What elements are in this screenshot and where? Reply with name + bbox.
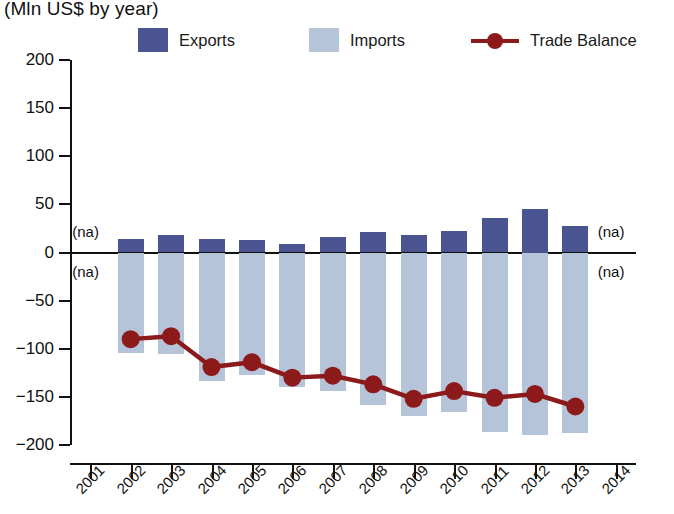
legend-label-trade-balance: Trade Balance	[530, 31, 637, 50]
chart-container: xports and Imports, by year (Mln US$ by …	[0, 0, 674, 514]
x-axis-tick-label: 2003	[153, 461, 189, 497]
y-axis-tick-label: −100	[0, 339, 54, 359]
y-axis-tick	[59, 396, 70, 398]
x-axis-tick-label: 2004	[194, 461, 230, 497]
legend-item-trade-balance: Trade Balance	[471, 28, 637, 52]
y-axis-tick	[59, 203, 70, 205]
y-axis-tick-label: 100	[0, 146, 54, 166]
imports-swatch-icon	[309, 28, 339, 52]
trade-balance-point	[243, 353, 261, 371]
trade-balance-point	[283, 369, 301, 387]
y-axis-tick-label: 150	[0, 98, 54, 118]
trade-balance-point	[324, 367, 342, 385]
legend-label-imports: Imports	[350, 31, 405, 50]
exports-swatch-icon	[138, 28, 168, 52]
trade-balance-point	[364, 375, 382, 393]
chart-legend: Exports Imports Trade Balance	[138, 28, 637, 52]
x-axis-tick-label: 2009	[396, 461, 432, 497]
y-axis-tick-label: −200	[0, 435, 54, 455]
trade-balance-line-layer	[70, 60, 636, 445]
trade-balance-point	[486, 389, 504, 407]
x-axis-tick-label: 2001	[72, 461, 108, 497]
y-axis-tick	[59, 444, 70, 446]
legend-item-exports: Exports	[138, 28, 235, 52]
y-axis-tick	[59, 107, 70, 109]
x-axis-tick-label: 2011	[477, 462, 512, 497]
y-axis-tick-label: 200	[0, 50, 54, 70]
y-axis-tick-label: −50	[0, 291, 54, 311]
legend-item-imports: Imports	[309, 28, 405, 52]
trade-balance-point	[203, 358, 221, 376]
y-axis-tick-label: −150	[0, 387, 54, 407]
trade-balance-line	[131, 336, 576, 406]
y-axis-tick	[59, 252, 70, 254]
trade-balance-line-icon	[471, 28, 519, 52]
y-axis-tick	[59, 155, 70, 157]
trade-balance-point	[405, 390, 423, 408]
plot-area: 200150100500−50−100−150−200(na)(na)(na)(…	[70, 60, 636, 445]
x-axis-tick-label: 2007	[315, 461, 351, 497]
x-axis-line	[70, 463, 636, 465]
chart-subtitle: (Mln US$ by year)	[4, 0, 159, 20]
y-axis-tick	[59, 300, 70, 302]
x-axis-tick-label: 2005	[234, 461, 270, 497]
x-axis-tick-label: 2010	[436, 461, 472, 497]
y-axis-tick-label: 0	[0, 243, 54, 263]
x-axis-tick-label: 2012	[517, 461, 553, 497]
trade-balance-point	[566, 398, 584, 416]
trade-balance-point	[162, 327, 180, 345]
trade-balance-point	[122, 330, 140, 348]
x-axis-tick-label: 2014	[598, 461, 634, 497]
x-axis-tick-label: 2002	[113, 461, 149, 497]
x-axis-tick-label: 2013	[557, 461, 593, 497]
y-axis-tick-label: 50	[0, 194, 54, 214]
trade-balance-point	[445, 382, 463, 400]
x-axis-tick-label: 2006	[274, 461, 310, 497]
legend-label-exports: Exports	[179, 31, 235, 50]
trade-balance-point	[526, 385, 544, 403]
x-axis-tick-label: 2008	[355, 461, 391, 497]
y-axis-tick	[59, 348, 70, 350]
y-axis-tick	[59, 59, 70, 61]
